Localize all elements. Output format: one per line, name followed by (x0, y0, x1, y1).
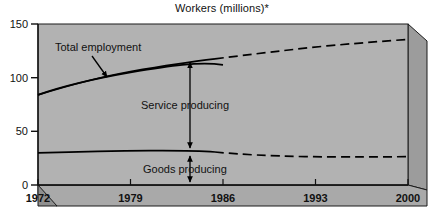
x-tick-label-1986: 1986 (203, 192, 243, 204)
y-tick-label-0: 0 (0, 179, 28, 191)
y-tick-label-100: 100 (0, 72, 28, 84)
annotation-service-producing: Service producing (141, 99, 229, 111)
annotation-goods-producing: Goods producing (143, 163, 227, 175)
x-tick-label-1993: 1993 (296, 192, 336, 204)
x-tick-label-1972: 1972 (18, 192, 58, 204)
chart-plot-area (0, 0, 444, 222)
x-tick-label-1979: 1979 (111, 192, 151, 204)
annotation-total-employment: Total employment (55, 41, 141, 53)
y-tick-label-50: 50 (0, 125, 28, 137)
y-tick-label-150: 150 (0, 18, 28, 30)
x-tick-label-2000: 2000 (388, 192, 428, 204)
right-side-panel-3d (408, 24, 427, 190)
chart-container: Workers (millions)* (0, 0, 444, 222)
